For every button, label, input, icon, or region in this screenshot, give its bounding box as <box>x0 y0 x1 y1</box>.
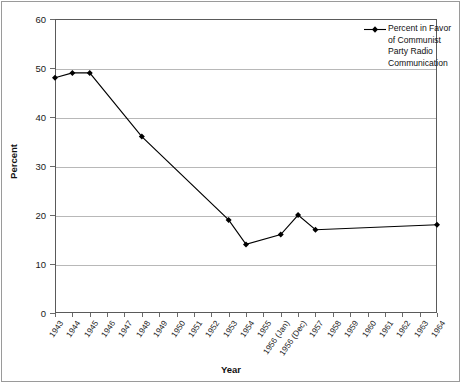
x-tick-label: 1945 <box>82 319 100 339</box>
x-tick-mark <box>246 313 247 317</box>
x-tick-mark <box>194 313 195 317</box>
x-tick-mark <box>263 313 264 317</box>
gridline <box>56 265 436 266</box>
y-tick-label: 40 <box>35 112 46 123</box>
x-tick-label: 1947 <box>117 319 135 339</box>
x-tick-mark <box>298 313 299 317</box>
gridline <box>56 216 436 217</box>
x-tick-label: 1944 <box>65 319 83 339</box>
x-tick-mark <box>107 313 108 317</box>
x-tick-label: 1964 <box>430 319 448 339</box>
x-tick-label: 1943 <box>48 319 66 339</box>
x-tick-mark <box>350 313 351 317</box>
x-tick-mark <box>72 313 73 317</box>
x-axis-title: Year <box>0 364 462 375</box>
x-tick-mark <box>315 313 316 317</box>
x-tick-label: 1962 <box>395 319 413 339</box>
x-tick-mark <box>229 313 230 317</box>
gridline <box>56 167 436 168</box>
y-tick-label: 60 <box>35 14 46 25</box>
y-tick-label: 50 <box>35 63 46 74</box>
x-tick-label: 1946 <box>100 319 118 339</box>
x-tick-label: 1949 <box>152 319 170 339</box>
x-tick-mark <box>90 313 91 317</box>
chart-figure: 0102030405060 Percent 194319441945194619… <box>0 0 462 384</box>
x-tick-mark <box>177 313 178 317</box>
x-tick-mark <box>124 313 125 317</box>
x-tick-label: 1954 <box>239 319 257 339</box>
legend-item: Percent in Favor of Communist Party Radi… <box>366 23 458 69</box>
gridline <box>56 118 436 119</box>
x-tick-mark <box>211 313 212 317</box>
y-tick-label: 20 <box>35 210 46 221</box>
x-tick-mark <box>142 313 143 317</box>
x-tick-label: 1963 <box>412 319 430 339</box>
x-tick-label: 1958 <box>325 319 343 339</box>
x-tick-label: 1961 <box>377 319 395 339</box>
x-tick-label: 1960 <box>360 319 378 339</box>
x-tick-mark <box>159 313 160 317</box>
legend: Percent in Favor of Communist Party Radi… <box>366 23 458 69</box>
y-tick-label: 30 <box>35 161 46 172</box>
x-tick-label: 1952 <box>204 319 222 339</box>
y-tick-label: 10 <box>35 259 46 270</box>
x-tick-mark <box>385 313 386 317</box>
legend-marker-icon <box>364 25 386 34</box>
x-tick-label: 1957 <box>308 319 326 339</box>
x-tick-mark <box>437 313 438 317</box>
x-tick-label: 1951 <box>186 319 204 339</box>
x-tick-mark <box>333 313 334 317</box>
x-tick-label: 1948 <box>134 319 152 339</box>
y-axis-title: Percent <box>8 144 19 179</box>
x-tick-mark <box>420 313 421 317</box>
x-tick-label: 1950 <box>169 319 187 339</box>
legend-label: Percent in Favor of Communist Party Radi… <box>388 23 458 69</box>
x-tick-label: 1959 <box>343 319 361 339</box>
x-tick-mark <box>281 313 282 317</box>
x-tick-label: 1953 <box>221 319 239 339</box>
x-tick-mark <box>55 313 56 317</box>
x-tick-mark <box>402 313 403 317</box>
x-tick-mark <box>368 313 369 317</box>
